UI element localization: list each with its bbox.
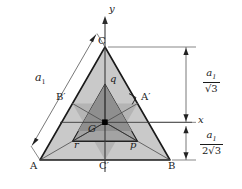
inradius-dimension-label: a1 2√3	[200, 130, 223, 156]
region-label-q: q	[110, 74, 116, 84]
side-length-label: a1	[35, 72, 46, 86]
vertex-label-c: C	[98, 36, 106, 46]
inradius-denominator: 2√3	[200, 144, 223, 157]
x-axis-label: x	[198, 115, 204, 125]
y-axis-arrow	[102, 16, 108, 24]
circumradius-denominator: √3	[203, 82, 220, 95]
circumradius-dimension-label: a1 √3	[203, 68, 220, 94]
vertex-label-a-prime: A′	[141, 92, 151, 102]
circumradius-numerator: a1	[203, 68, 220, 81]
side-length-subscript: 1	[42, 78, 46, 86]
inradius-numerator: a1	[200, 130, 223, 143]
vertex-label-b-prime: B′	[56, 92, 66, 102]
vertex-label-b: B	[168, 161, 175, 171]
vertex-label-a: A	[30, 161, 37, 171]
centroid-dot	[102, 119, 108, 125]
centroid-label-g: G	[88, 124, 96, 134]
y-axis-label: y	[109, 4, 115, 14]
region-label-p: p	[130, 140, 136, 150]
vertex-label-c-prime: C′	[99, 161, 109, 171]
region-label-r: r	[74, 140, 79, 150]
